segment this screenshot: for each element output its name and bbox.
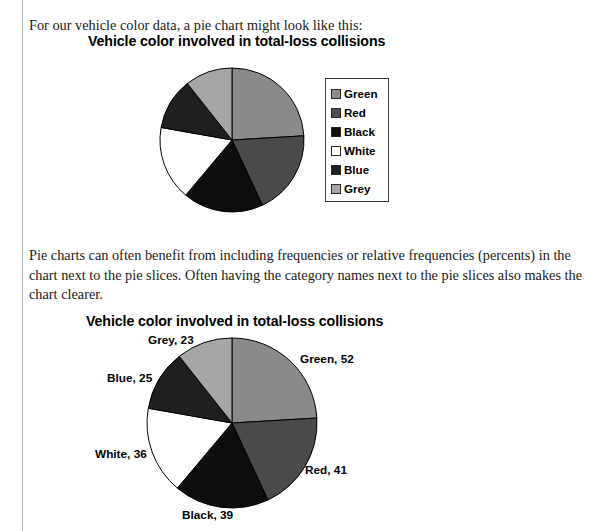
legend-item-red: Red — [331, 103, 388, 122]
pie-data-label-blue: Blue, 25 — [107, 371, 152, 385]
legend-item-white: White — [331, 141, 388, 160]
pie2-slice-group — [147, 338, 317, 508]
pie-data-label-black: Black, 39 — [182, 508, 233, 522]
legend-label-blue: Blue — [344, 164, 369, 176]
chart1-legend: GreenRedBlackWhiteBlueGrey — [325, 78, 389, 202]
legend-item-blue: Blue — [331, 160, 388, 179]
legend-label-white: White — [344, 145, 376, 157]
pie-data-label-red: Red, 41 — [305, 463, 347, 477]
legend-swatch-white-icon — [331, 146, 341, 156]
legend-label-grey: Grey — [344, 183, 370, 195]
legend-label-red: Red — [344, 107, 366, 119]
pie-slice-green — [232, 338, 317, 423]
legend-swatch-blue-icon — [331, 165, 341, 175]
pie-data-label-grey: Grey, 23 — [148, 333, 194, 347]
legend-label-green: Green — [344, 88, 378, 100]
legend-label-black: Black — [344, 126, 375, 138]
legend-item-grey: Grey — [331, 179, 388, 198]
legend-swatch-black-icon — [331, 127, 341, 137]
legend-swatch-green-icon — [331, 89, 341, 99]
pie-chart-with-legend — [0, 0, 614, 220]
pie-chart-with-data-labels — [0, 300, 614, 531]
pie-data-label-green: Green, 52 — [300, 352, 354, 366]
legend-item-green: Green — [331, 84, 388, 103]
pie-data-label-white: White, 36 — [95, 447, 147, 461]
legend-swatch-red-icon — [331, 108, 341, 118]
pie-slice-green — [232, 68, 304, 140]
pie-chart-2-svg — [0, 300, 614, 531]
middle-paragraph: Pie charts can often benefit from includ… — [29, 246, 601, 305]
legend-item-black: Black — [331, 122, 388, 141]
pie-chart-1-svg — [0, 0, 614, 220]
legend-swatch-grey-icon — [331, 184, 341, 194]
pie1-slice-group — [160, 68, 304, 212]
